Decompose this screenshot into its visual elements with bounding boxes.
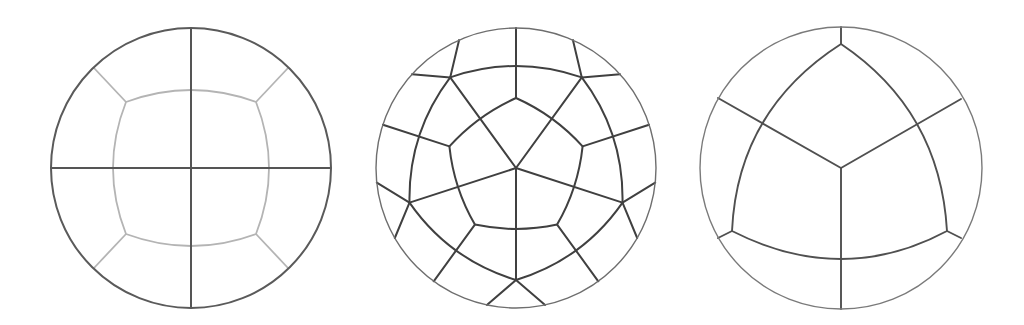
partition-line: [718, 231, 732, 238]
partition-line: [487, 280, 516, 305]
partition-line: [450, 40, 459, 77]
partition-line: [434, 225, 475, 282]
three-sector-circle-diagram: [700, 27, 982, 309]
corner-spoke: [94, 234, 126, 268]
corner-spoke: [256, 234, 288, 268]
partition-line: [412, 74, 450, 77]
partition-line: [947, 231, 961, 238]
curved-triangle: [732, 44, 947, 259]
four-quadrant-circle-diagram: [51, 28, 331, 308]
partition-line: [841, 99, 961, 168]
figure: [0, 0, 1024, 325]
partition-line: [395, 203, 410, 238]
partition-line: [582, 74, 620, 77]
partition-line: [516, 77, 582, 168]
partition-line: [718, 98, 841, 168]
corner-spoke: [256, 68, 288, 102]
corner-spoke: [94, 68, 126, 102]
partition-line: [557, 225, 598, 282]
partition-line: [450, 77, 516, 168]
partition-line: [516, 280, 545, 305]
partition-line: [377, 183, 410, 203]
partition-line: [623, 183, 656, 203]
partition-line: [623, 203, 638, 238]
partition-line: [573, 40, 582, 77]
pentagonal-circle-diagram: [376, 28, 656, 308]
figure-canvas: [0, 0, 1024, 325]
